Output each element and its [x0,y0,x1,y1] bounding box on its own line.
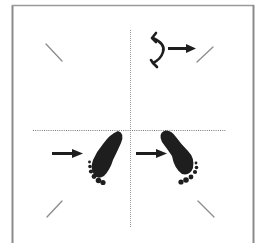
rotate-icon [151,33,164,67]
arrow-right-icon [168,44,196,53]
foot-placement-diagram [0,0,256,245]
arrow-right-icon [52,149,83,158]
left-footprint-icon [88,131,122,185]
arrow-right-icon [136,149,167,158]
frame [12,5,254,243]
tick-bottom-left [47,201,62,217]
tick-top-right [197,47,213,62]
tick-top-left [46,44,62,61]
tick-bottom-right [198,201,214,217]
right-footprint-icon [160,131,198,185]
